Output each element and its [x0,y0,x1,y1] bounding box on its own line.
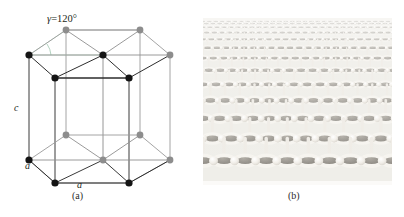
gamma-value: 120° [57,13,77,24]
axis-label-c: c [14,103,18,113]
caption-panel-b: (b) [288,190,300,201]
axis-label-a-left: a [25,161,30,171]
figure-root: ▫ ▫▫▫ ▫▫▫▫▫ ▫▫▫ ▫▫▫▫ ▫▫▫ ▫▫▫▫ ▫▫▫▫ ▫▫▫▫▫… [0,0,404,217]
panel-a-hexagonal-unit-cell: γ=120° c a a [0,8,200,217]
clipped-header-text-content: ▫ ▫▫▫ ▫▫▫▫▫ ▫▫▫ ▫▫▫▫ ▫▫▫ ▫▫▫▫ ▫▫▫▫ ▫▫▫▫▫… [0,0,236,2]
graphene-lattice-image [203,18,392,185]
lattice-atoms-front [25,51,132,186]
panel-b-graphene-lattice [203,18,392,185]
top-face [29,30,170,78]
bottom-face [29,135,170,183]
lattice-atoms-back [63,27,174,164]
clipped-header-text: ▫ ▫▫▫ ▫▫▫▫▫ ▫▫▫ ▫▫▫▫ ▫▫▫ ▫▫▫▫ ▫▫▫▫ ▫▫▫▫▫… [0,0,404,7]
unit-cell-drawing [0,8,200,217]
gamma-angle-label: γ=120° [47,14,77,25]
caption-panel-a: (a) [72,190,83,201]
axis-label-a-bottom: a [77,180,82,190]
